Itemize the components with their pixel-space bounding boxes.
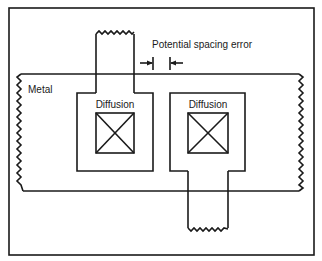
spacing-error-label: Potential spacing error [152,39,253,50]
diffusion-left-label: Diffusion [96,99,135,110]
metal-layer [17,74,303,191]
metal-label: Metal [28,84,52,95]
left-diffusion: Diffusion [77,31,153,171]
right-diffusion: Diffusion [170,93,245,231]
spacing-error-dimension: Potential spacing error [140,39,253,70]
diffusion-right-label: Diffusion [189,99,228,110]
layout-diagram: Diffusion Diffusion Metal Potential spac… [0,0,322,261]
